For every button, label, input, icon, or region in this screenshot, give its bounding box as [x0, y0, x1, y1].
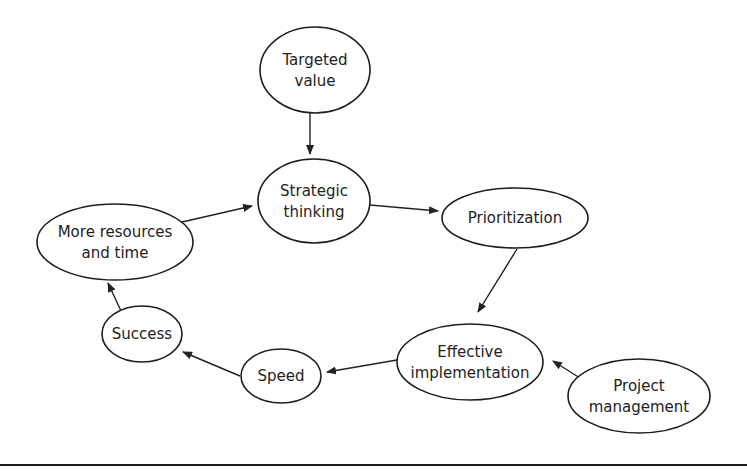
arrow-icon [478, 249, 517, 312]
arrow-prioritization-to-effective-implementation [478, 249, 517, 312]
arrow-icon [108, 283, 121, 311]
arrow-icon [182, 206, 252, 222]
node-ellipse [260, 27, 370, 113]
node-ellipse [37, 204, 193, 280]
node-label: Effective [437, 343, 502, 361]
node-label: Strategic [280, 182, 348, 200]
node-strategic-thinking: Strategicthinking [258, 159, 370, 243]
node-label: Targeted [281, 51, 347, 69]
diagram-canvas: TargetedvalueStrategicthinkingPrioritiza… [0, 0, 747, 474]
node-prioritization: Prioritization [442, 188, 588, 248]
node-label: value [295, 72, 336, 90]
node-label: Project [613, 377, 664, 395]
node-success: Success [102, 306, 182, 362]
node-ellipse [397, 324, 543, 400]
node-label: Success [112, 325, 173, 343]
node-more-resources: More resourcesand time [37, 204, 193, 280]
arrow-icon [553, 361, 580, 378]
node-ellipse [258, 159, 370, 243]
arrow-more-resources-to-strategic-thinking [182, 206, 252, 222]
node-label: thinking [284, 203, 345, 221]
node-label: and time [82, 244, 149, 262]
node-label: Prioritization [468, 209, 562, 227]
arrow-success-to-more-resources [108, 283, 121, 311]
node-ellipse [568, 359, 710, 433]
node-targeted-value: Targetedvalue [260, 27, 370, 113]
node-label: implementation [411, 364, 530, 382]
arrow-strategic-thinking-to-prioritization [370, 205, 438, 211]
node-label: management [589, 398, 690, 416]
node-label: More resources [58, 223, 173, 241]
bottom-rule [0, 464, 747, 466]
node-project-management: Projectmanagement [568, 359, 710, 433]
arrow-project-management-to-effective-implementation [553, 361, 580, 378]
arrow-icon [370, 205, 438, 211]
arrow-icon [327, 360, 397, 372]
nodes-layer: TargetedvalueStrategicthinkingPrioritiza… [37, 27, 710, 433]
node-speed: Speed [241, 349, 321, 403]
node-label: Speed [257, 367, 304, 385]
arrow-effective-implementation-to-speed [327, 360, 397, 372]
arrow-speed-to-success [183, 352, 240, 376]
node-effective-implementation: Effectiveimplementation [397, 324, 543, 400]
arrow-icon [183, 352, 240, 376]
